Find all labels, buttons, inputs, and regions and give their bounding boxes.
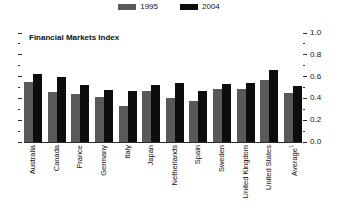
x-axis-category-labels: AustraliaCanadaFranceGermanyItalyJapanNe… (24, 145, 302, 217)
bar-group (260, 33, 278, 142)
bar-group (166, 33, 184, 142)
x-axis-label-cell: France (71, 145, 89, 217)
tick-dash (18, 65, 20, 66)
tick-dash (303, 65, 305, 66)
tick-dash (18, 54, 22, 55)
bar-2004 (128, 91, 137, 142)
x-axis-label: Netherlands (171, 145, 179, 185)
tick-dash (303, 87, 305, 88)
legend-entry-2004: 2004 (180, 3, 220, 11)
bar-group (24, 33, 42, 142)
tick-dash (18, 109, 20, 110)
y-tick-label: 0.2 (310, 116, 321, 124)
tick-dash (18, 43, 20, 44)
bar-2004 (57, 77, 66, 142)
bar-1995 (119, 106, 128, 142)
tick-dash (18, 98, 22, 99)
x-axis-label: Canada (53, 145, 61, 171)
tick-dash (303, 76, 307, 77)
x-axis-label: Australia (29, 145, 37, 174)
x-axis-label-cell: Sweden (213, 145, 231, 217)
bar-group (189, 33, 207, 142)
x-axis-label-cell: Spain (189, 145, 207, 217)
financial-markets-index-chart: 1995 2004 Financial Markets Index 1.00.8… (0, 0, 338, 220)
tick-dash (18, 120, 22, 121)
x-axis-label-cell: Average1 (284, 145, 302, 217)
legend-swatch-2004 (180, 4, 198, 10)
bar-1995 (166, 98, 175, 142)
y-axis-right: 1.00.80.60.40.20.0 (303, 33, 337, 142)
bar-1995 (284, 93, 293, 142)
bar-1995 (95, 97, 104, 142)
bar-2004 (175, 83, 184, 142)
bar-group (119, 33, 137, 142)
x-axis-label-cell: United Kingdom (237, 145, 255, 217)
x-axis-label: Germany (100, 145, 108, 176)
x-axis-label-cell: Germany (95, 145, 113, 217)
x-axis-baseline (24, 142, 302, 143)
x-axis-label-cell: Australia (24, 145, 42, 217)
x-axis-label-cell: United States (260, 145, 278, 217)
bar-1995 (189, 101, 198, 142)
bar-group (213, 33, 231, 142)
bar-1995 (213, 89, 222, 142)
bar-2004 (269, 70, 278, 142)
bar-2004 (104, 90, 113, 142)
footnote-marker: 1 (288, 145, 294, 148)
legend-entry-1995: 1995 (118, 3, 158, 11)
tick-dash (303, 120, 307, 121)
tick-dash (303, 33, 307, 34)
y-tick-label: 0.0 (310, 138, 321, 146)
legend-label-2004: 2004 (202, 3, 220, 11)
y-tick-label: 0.8 (310, 51, 321, 59)
bar-2004 (246, 83, 255, 142)
x-axis-label: France (76, 145, 84, 168)
bar-group (142, 33, 160, 142)
bar-group (237, 33, 255, 142)
tick-dash (303, 54, 307, 55)
y-tick-label: 0.6 (310, 73, 321, 81)
bar-groups (24, 33, 302, 142)
x-axis-label: Average1 (287, 145, 299, 176)
legend-label-1995: 1995 (140, 3, 158, 11)
bar-group (71, 33, 89, 142)
x-axis-label: United States (265, 145, 273, 190)
x-axis-label-cell: Italy (119, 145, 137, 217)
bar-1995 (260, 80, 269, 142)
x-axis-label: Japan (147, 145, 155, 165)
tick-dash (303, 109, 305, 110)
y-tick-label: 1.0 (310, 29, 321, 37)
bar-2004 (33, 74, 42, 142)
x-axis-label: Italy (124, 145, 132, 159)
x-axis-label: Spain (194, 145, 202, 164)
x-axis-label: United Kingdom (242, 145, 250, 198)
bar-2004 (198, 91, 207, 142)
legend-swatch-1995 (118, 4, 136, 10)
bar-2004 (80, 85, 89, 142)
x-axis-label-cell: Netherlands (166, 145, 184, 217)
bar-group (95, 33, 113, 142)
tick-dash (18, 33, 22, 34)
bar-1995 (48, 92, 57, 142)
bar-1995 (142, 91, 151, 142)
y-tick-label: 0.4 (310, 94, 321, 102)
tick-dash (303, 43, 305, 44)
bar-group (48, 33, 66, 142)
tick-dash (18, 76, 22, 77)
x-axis-label-cell: Japan (142, 145, 160, 217)
tick-dash (18, 142, 22, 143)
bar-2004 (151, 85, 160, 142)
chart-legend: 1995 2004 (0, 1, 338, 13)
tick-dash (18, 131, 20, 132)
tick-dash (303, 142, 307, 143)
bar-2004 (222, 84, 231, 142)
x-axis-label-cell: Canada (48, 145, 66, 217)
bar-1995 (24, 82, 33, 142)
x-axis-label: Sweden (218, 145, 226, 172)
bar-1995 (237, 89, 246, 142)
bar-1995 (71, 94, 80, 142)
bar-2004 (293, 86, 302, 142)
tick-dash (303, 98, 307, 99)
tick-dash (303, 131, 305, 132)
tick-dash (18, 87, 20, 88)
